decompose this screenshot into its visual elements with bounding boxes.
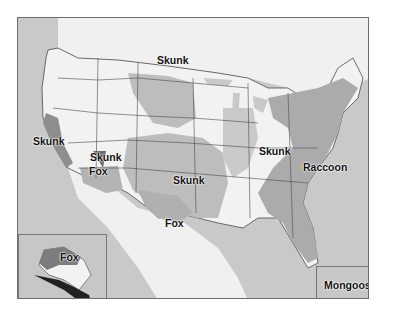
label-fox-alaska: Fox <box>60 252 79 263</box>
label-skunk-midwest: Skunk <box>259 146 291 157</box>
label-mongoose-hawaii: Mongoose <box>324 280 369 291</box>
label-raccoon-east: Raccoon <box>303 162 347 173</box>
label-skunk-north-central: Skunk <box>157 55 189 66</box>
label-skunk-california: Skunk <box>33 136 65 147</box>
hawaii-inset: Mongoose <box>316 266 369 299</box>
alaska-map <box>19 235 107 299</box>
label-fox-arizona: Fox <box>89 166 108 177</box>
label-fox-texas: Fox <box>165 218 184 229</box>
alaska-inset: Fox <box>18 234 107 299</box>
map-frame: Skunk Skunk Skunk Fox Skunk Fox Skunk Ra… <box>17 17 369 299</box>
label-skunk-south-central: Skunk <box>173 175 205 186</box>
label-skunk-arizona: Skunk <box>90 152 122 163</box>
